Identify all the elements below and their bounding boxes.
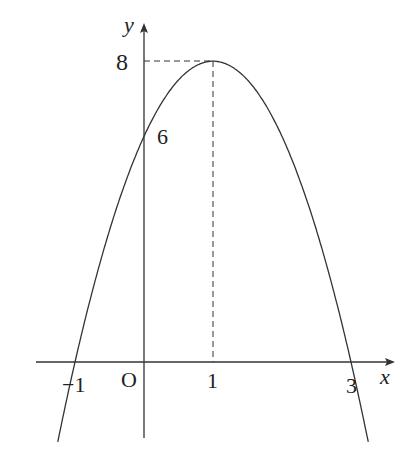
chart-canvas	[0, 0, 405, 469]
x-tick-1: 1	[207, 370, 218, 392]
x-axis-label: x	[380, 366, 390, 388]
x-tick-minus-1: −1	[62, 374, 85, 396]
y-tick-8: 8	[116, 50, 128, 74]
x-tick-3: 3	[346, 375, 357, 397]
y-axis-label: y	[124, 14, 134, 36]
origin-label: O	[121, 369, 137, 391]
y-tick-6: 6	[157, 126, 168, 148]
